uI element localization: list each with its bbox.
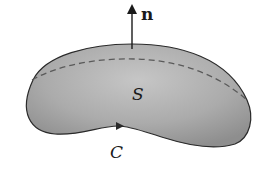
- surface-diagram: n S C: [0, 0, 273, 170]
- label-c: C: [110, 142, 123, 162]
- label-s: S: [132, 84, 144, 104]
- label-n: n: [141, 4, 153, 24]
- normal-vector-arrowhead-icon: [127, 4, 137, 14]
